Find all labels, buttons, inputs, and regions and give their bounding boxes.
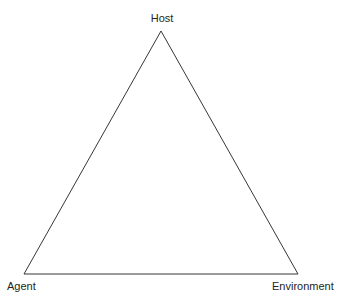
vertex-label-agent: Agent <box>7 280 36 292</box>
edge-host-agent <box>24 31 161 274</box>
edge-environment-host <box>161 31 298 274</box>
vertex-label-host: Host <box>151 12 174 24</box>
vertex-label-environment: Environment <box>272 280 334 292</box>
epidemiologic-triangle <box>0 0 353 303</box>
